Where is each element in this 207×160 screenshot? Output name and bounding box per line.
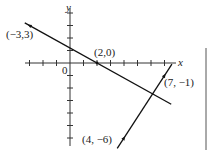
coordinate-plane: x y 0 (−3,3) (2,0) (7, −1) (4, −6) (0, 0, 207, 160)
point-marker-2-0 (96, 62, 99, 65)
x-axis-label: x (177, 56, 183, 68)
point-label-2-0: (2,0) (94, 46, 115, 59)
y-axis-label: y (65, 1, 71, 13)
point-label-neg3-3: (−3,3) (6, 28, 34, 41)
point-label-4-neg6: (4, −6) (82, 133, 112, 146)
point-label-7-neg1: (7, −1) (164, 76, 194, 89)
origin-label: 0 (62, 64, 68, 76)
